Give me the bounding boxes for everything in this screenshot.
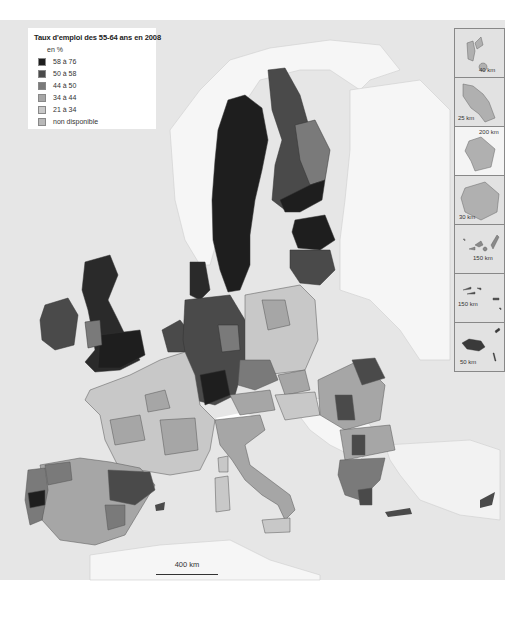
legend-swatch — [38, 118, 46, 126]
legend-label: 50 à 58 — [53, 70, 76, 77]
inset-scale-label: 30 km — [459, 214, 475, 220]
inset-guadeloupe: 40 km — [455, 29, 504, 78]
inset-martinique: 25 km — [455, 78, 504, 127]
legend-item: 34 à 44 — [38, 93, 76, 102]
legend-item: 50 à 58 — [38, 69, 76, 78]
inset-scale-label: 200 km — [479, 129, 499, 135]
legend-swatch — [38, 82, 46, 90]
inset-scale-label: 50 km — [460, 359, 476, 365]
inset-scale-label: 150 km — [458, 301, 478, 307]
legend-label: 58 à 76 — [53, 58, 76, 65]
legend-item: 21 à 34 — [38, 105, 76, 114]
inset-canarias: 150 km — [455, 225, 504, 274]
inset-scale-label: 150 km — [473, 255, 493, 261]
legend-swatch — [38, 58, 46, 66]
legend-item: 58 à 76 — [38, 57, 76, 66]
legend: Taux d'emploi des 55-64 ans en 2008 en %… — [28, 28, 156, 129]
inset-madeira: 50 km — [455, 323, 504, 371]
legend-unit: en % — [47, 46, 63, 53]
inset-scale-label: 25 km — [458, 115, 474, 121]
legend-item: non disponible — [38, 117, 98, 126]
legend-item: 44 à 50 — [38, 81, 76, 90]
inset-acores: 150 km — [455, 274, 504, 323]
legend-label: 34 à 44 — [53, 94, 76, 101]
legend-swatch — [38, 70, 46, 78]
scale-bar-label: 400 km — [156, 560, 218, 569]
legend-label: 21 à 34 — [53, 106, 76, 113]
legend-label: 44 à 50 — [53, 82, 76, 89]
overseas-insets: 40 km 25 km 200 km 30 km 150 km 150 km 5… — [454, 28, 505, 372]
scale-bar: 400 km — [156, 560, 218, 575]
scale-bar-line — [156, 574, 218, 575]
inset-guyane: 200 km — [455, 127, 504, 176]
legend-label: non disponible — [53, 118, 98, 125]
legend-title: Taux d'emploi des 55-64 ans en 2008 — [34, 33, 161, 42]
inset-reunion: 30 km — [455, 176, 504, 225]
legend-swatch — [38, 106, 46, 114]
inset-scale-label: 40 km — [479, 67, 495, 73]
legend-swatch — [38, 94, 46, 102]
